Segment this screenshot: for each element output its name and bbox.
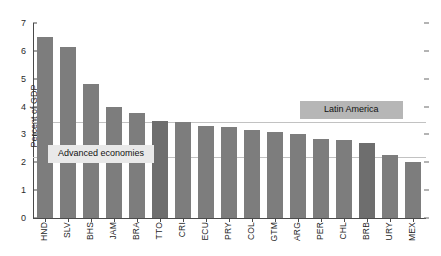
y-tick-mark-right-7 <box>424 23 429 24</box>
y-tick-mark-7 <box>33 23 37 24</box>
bar-bra <box>129 113 145 218</box>
y-tick-mark-right-3 <box>424 134 429 135</box>
bar-ury <box>382 155 398 218</box>
y-tick-mark-right-6 <box>424 50 429 51</box>
x-axis-label-hnd: HND <box>40 222 49 241</box>
bar-col <box>244 130 260 218</box>
y-tick-mark-right-5 <box>424 78 429 79</box>
x-axis-label-mex: MEX <box>408 222 417 241</box>
annotation-advanced-economies: Advanced economies <box>48 145 154 163</box>
x-axis-label-brb: BRB <box>362 222 371 240</box>
x-axis-label-jam: JAM <box>109 222 118 240</box>
x-axis-label-col: COL <box>247 222 256 240</box>
bar-pry <box>221 127 237 218</box>
y-tick-label-1: 1 <box>0 186 26 195</box>
x-axis-label-bhs: BHS <box>86 222 95 240</box>
x-axis-label-ury: URY <box>385 222 394 240</box>
x-axis-label-gtm: GTM <box>270 222 279 241</box>
y-tick-label-4: 4 <box>0 102 26 111</box>
y-tick-label-2: 2 <box>0 158 26 167</box>
x-axis-label-per: PER <box>316 222 325 240</box>
bar-ecu <box>198 126 214 218</box>
x-axis-label-pry: PRY <box>224 222 233 240</box>
x-axis-label-slv: SLV <box>63 222 72 238</box>
bar-mex <box>405 162 421 218</box>
x-axis-label-bra: BRA <box>132 222 141 240</box>
bar-cri <box>175 122 191 218</box>
x-axis-label-chl: CHL <box>339 222 348 240</box>
x-axis-label-arg: ARG <box>293 222 302 241</box>
bar-chl <box>336 140 352 218</box>
y-tick-label-7: 7 <box>0 19 26 28</box>
y-tick-mark-right-2 <box>424 162 429 163</box>
y-tick-label-6: 6 <box>0 46 26 55</box>
bar-hnd <box>37 37 53 218</box>
bar-gtm <box>267 132 283 218</box>
x-axis-label-ecu: ECU <box>201 222 210 241</box>
y-tick-mark-right-1 <box>424 190 429 191</box>
x-axis-label-cri: CRI <box>178 222 187 237</box>
y-tick-label-3: 3 <box>0 130 26 139</box>
bar-chart: Percent of GDP 01234567 HNDSLVBHSJAMBRAT… <box>0 0 441 256</box>
y-tick-mark-right-4 <box>424 106 429 107</box>
bar-slv <box>60 47 76 218</box>
bar-per <box>313 139 329 218</box>
bar-arg <box>290 134 306 218</box>
y-tick-label-0: 0 <box>0 214 26 223</box>
annotation-latin-america: Latin America <box>300 101 403 119</box>
bar-brb <box>359 143 375 218</box>
bar-tto <box>152 121 168 219</box>
y-tick-mark-right-0 <box>424 218 429 219</box>
y-tick-label-5: 5 <box>0 74 26 83</box>
x-axis-label-tto: TTO <box>155 222 164 239</box>
